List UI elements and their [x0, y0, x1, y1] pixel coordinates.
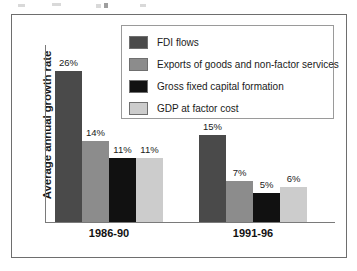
- bar-value-fdi-flows-1986-90: 26%: [55, 57, 82, 68]
- legend-item-fdi-flows: FDI flows: [129, 33, 199, 51]
- plot-area: Average annual growth rate 26% 14% 11% 1…: [12, 15, 348, 259]
- bar-gdp-factor-cost-1991-96: [280, 187, 307, 222]
- chart-legend: FDI flows Exports of goods and non-facto…: [121, 25, 334, 119]
- bar-value-gross-fixed-capital-1986-90: 11%: [109, 144, 136, 155]
- category-label-1991-96: 1991-96: [199, 227, 307, 239]
- y-axis-label: Average annual growth rate: [41, 50, 53, 200]
- x-axis-line: [45, 222, 335, 223]
- legend-item-gross-fixed-capital: Gross fixed capital formation: [129, 77, 284, 95]
- bar-value-gdp-factor-cost-1991-96: 6%: [280, 173, 307, 184]
- bar-value-gdp-factor-cost-1986-90: 11%: [136, 144, 163, 155]
- legend-swatch-gdp-factor-cost: [129, 102, 148, 115]
- y-axis-line: [45, 45, 46, 223]
- legend-label-exports: Exports of goods and non-factor services: [157, 59, 339, 70]
- bar-value-fdi-flows-1991-96: 15%: [199, 121, 226, 132]
- bar-exports-1986-90: [82, 141, 109, 222]
- legend-label-fdi-flows: FDI flows: [157, 37, 199, 48]
- legend-swatch-fdi-flows: [129, 36, 148, 49]
- bar-gdp-factor-cost-1986-90: [136, 158, 163, 222]
- bar-fdi-flows-1991-96: [199, 135, 226, 222]
- legend-item-exports: Exports of goods and non-factor services: [129, 55, 339, 73]
- bar-exports-1991-96: [226, 181, 253, 222]
- chart-figure-frame: Average annual growth rate 26% 14% 11% 1…: [11, 14, 347, 258]
- bar-value-exports-1986-90: 14%: [82, 127, 109, 138]
- legend-swatch-gross-fixed-capital: [129, 80, 148, 93]
- bar-value-gross-fixed-capital-1991-96: 5%: [253, 179, 280, 190]
- bar-gross-fixed-capital-1986-90: [109, 158, 136, 222]
- legend-label-gdp-factor-cost: GDP at factor cost: [157, 103, 239, 114]
- legend-label-gross-fixed-capital: Gross fixed capital formation: [157, 81, 284, 92]
- legend-item-gdp-factor-cost: GDP at factor cost: [129, 99, 239, 117]
- category-label-1986-90: 1986-90: [55, 227, 163, 239]
- legend-swatch-exports: [129, 58, 148, 71]
- bar-gross-fixed-capital-1991-96: [253, 193, 280, 222]
- bar-fdi-flows-1986-90: [55, 71, 82, 222]
- bar-value-exports-1991-96: 7%: [226, 167, 253, 178]
- scan-artifacts: [0, 0, 357, 13]
